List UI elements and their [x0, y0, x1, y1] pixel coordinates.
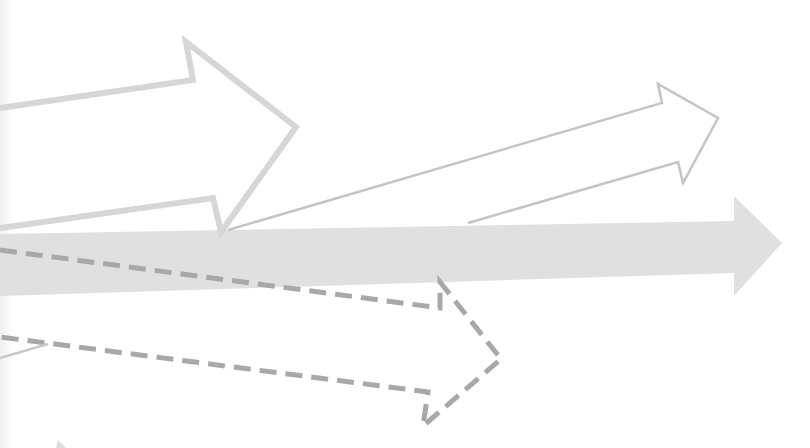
thin-outline-arrow-icon — [228, 84, 718, 230]
arrows-illustration: Arrows diverging from a common origin — [0, 0, 810, 448]
faint-arrow-tip-icon — [56, 440, 66, 448]
arrows-svg — [0, 0, 810, 448]
thin-line-icon — [0, 344, 48, 358]
thick-outline-arrow-icon — [0, 42, 296, 232]
